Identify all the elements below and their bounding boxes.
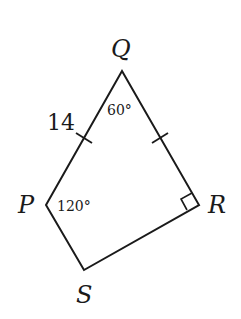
side-length-pq: 14 — [47, 110, 75, 135]
angle-label-q: 60° — [107, 102, 132, 118]
vertex-label-q: Q — [111, 35, 131, 63]
right-angle-marker-r — [181, 193, 192, 210]
angle-label-p: 120° — [57, 198, 91, 214]
quadrilateral-pqrs — [46, 71, 199, 270]
quadrilateral-diagram: Q P R S 14 60° 120° — [0, 0, 241, 319]
vertex-label-p: P — [17, 191, 35, 219]
congruence-tick-qr — [152, 133, 168, 143]
vertex-label-s: S — [76, 281, 92, 309]
vertex-label-r: R — [207, 191, 226, 219]
congruence-tick-pq — [76, 133, 92, 143]
